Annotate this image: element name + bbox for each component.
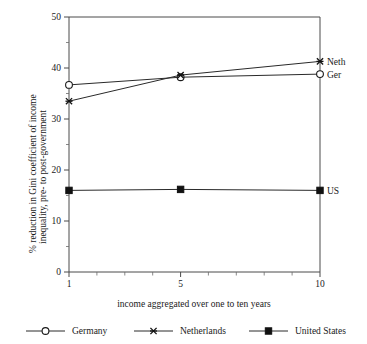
x-tick-label-1: 1: [67, 279, 72, 289]
x-axis-ticks: [69, 272, 320, 277]
legend-marker-united-states-filled-square: [265, 328, 271, 334]
plot-frame: [69, 17, 320, 272]
data-point-united-states-5: [177, 186, 183, 192]
data-point-germany-10: [317, 71, 324, 78]
endpoint-label-united-states: US: [327, 186, 339, 196]
y-axis-ticks: [64, 17, 69, 272]
chart-title-cropped: [0, 0, 367, 2]
x-tick-label-5: 5: [178, 279, 183, 289]
data-point-united-states-1: [66, 187, 72, 193]
legend-label-germany: Germany: [72, 326, 108, 336]
y-axis-title-line1: % reduction in Gini coefficient of incom…: [28, 94, 38, 253]
legend-item-netherlands[interactable]: Netherlands: [134, 326, 226, 336]
y-tick-label-10: 10: [52, 216, 62, 226]
legend-item-germany[interactable]: Germany: [26, 326, 108, 336]
chart-figure: 0 10 20 30 40 50 1 5 10 % reduction in G…: [0, 0, 367, 344]
line-chart-canvas: 0 10 20 30 40 50 1 5 10 % reduction in G…: [0, 0, 367, 344]
y-tick-label-40: 40: [52, 63, 62, 73]
legend-label-netherlands: Netherlands: [180, 326, 226, 336]
legend-label-united-states: United States: [295, 326, 346, 336]
x-axis-title: income aggregated over one to ten years: [117, 299, 271, 309]
y-tick-label-50: 50: [52, 12, 62, 22]
chart-legend: Germany Netherlands United States: [26, 326, 346, 336]
y-axis-title-line2: inequality, pre- to post-government: [38, 110, 48, 244]
legend-marker-germany-open-circle: [42, 328, 49, 335]
data-point-germany-1: [66, 82, 73, 89]
endpoint-label-germany: Ger: [327, 70, 342, 80]
legend-marker-netherlands-x: [150, 328, 157, 334]
series-netherlands: [66, 58, 324, 104]
y-tick-label-30: 30: [52, 114, 62, 124]
y-tick-label-20: 20: [52, 165, 62, 175]
y-tick-label-0: 0: [56, 267, 61, 277]
data-point-united-states-10: [317, 187, 323, 193]
legend-item-united-states[interactable]: United States: [249, 326, 346, 336]
x-tick-label-10: 10: [315, 279, 325, 289]
endpoint-label-netherlands: Neth: [327, 57, 346, 67]
series-united-states: [66, 186, 323, 193]
